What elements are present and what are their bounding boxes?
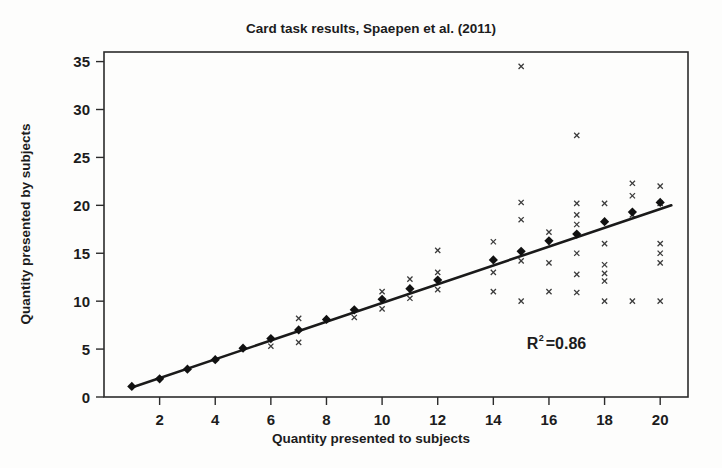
x-marker	[491, 289, 496, 294]
x-marker	[519, 64, 524, 69]
x-tick-label: 10	[374, 411, 391, 428]
x-marker	[658, 184, 663, 189]
individual-response-markers	[268, 64, 663, 349]
x-marker	[379, 306, 384, 311]
x-marker	[435, 287, 440, 292]
x-marker	[379, 289, 384, 294]
x-tick-label: 20	[652, 411, 669, 428]
x-tick-label: 6	[267, 411, 275, 428]
x-marker	[574, 272, 579, 277]
x-marker	[407, 296, 412, 301]
mean-diamond-marker	[544, 236, 553, 245]
y-axis-label: Quantity presented by subjects	[18, 123, 33, 324]
x-marker	[491, 239, 496, 244]
x-marker	[658, 299, 663, 304]
x-marker	[574, 290, 579, 295]
mean-diamond-marker	[155, 374, 164, 383]
y-axis-ticks: 05101520253035	[73, 53, 104, 405]
x-tick-label: 8	[322, 411, 330, 428]
y-tick-label: 35	[73, 53, 90, 70]
x-marker	[574, 133, 579, 138]
scatter-plot-canvas: Card task results, Spaepen et al. (2011)…	[0, 0, 722, 468]
x-axis-ticks: 2468101214161820	[155, 397, 668, 428]
x-tick-label: 12	[429, 411, 446, 428]
x-tick-label: 14	[485, 411, 502, 428]
r-squared-value: =0.86	[546, 335, 587, 352]
x-marker	[519, 200, 524, 205]
chart-title: Card task results, Spaepen et al. (2011)	[246, 21, 496, 36]
y-tick-label: 10	[73, 293, 90, 310]
x-marker	[658, 251, 663, 256]
x-marker	[268, 344, 273, 349]
x-marker	[491, 270, 496, 275]
x-marker	[546, 289, 551, 294]
x-marker	[630, 181, 635, 186]
x-marker	[546, 230, 551, 235]
x-tick-label: 16	[541, 411, 558, 428]
x-tick-label: 2	[155, 411, 163, 428]
x-marker	[519, 258, 524, 263]
x-marker	[658, 260, 663, 265]
x-marker	[630, 299, 635, 304]
x-marker	[602, 278, 607, 283]
x-marker	[546, 260, 551, 265]
y-tick-label: 5	[82, 341, 90, 358]
r-squared-annotation: R 2 =0.86	[527, 333, 587, 352]
x-marker	[574, 222, 579, 227]
mean-diamond-marker	[600, 217, 609, 226]
x-marker	[407, 277, 412, 282]
x-marker	[602, 299, 607, 304]
r-squared-superscript: 2	[539, 333, 544, 343]
x-marker	[574, 212, 579, 217]
mean-diamond-marker	[127, 382, 136, 391]
mean-diamond-marker	[628, 207, 637, 216]
y-tick-label: 15	[73, 245, 90, 262]
mean-diamond-marker	[656, 198, 665, 207]
x-marker	[658, 241, 663, 246]
x-marker	[602, 201, 607, 206]
x-marker	[602, 262, 607, 267]
mean-diamond-marker	[183, 365, 192, 374]
mean-diamond-marker	[211, 355, 220, 364]
x-marker	[296, 316, 301, 321]
x-marker	[574, 251, 579, 256]
chart-figure: Card task results, Spaepen et al. (2011)…	[0, 0, 722, 468]
x-marker	[602, 241, 607, 246]
r-squared-text: R	[527, 335, 539, 352]
x-marker	[519, 217, 524, 222]
x-axis-label: Quantity presented to subjects	[272, 431, 470, 446]
y-tick-label: 0	[82, 389, 90, 406]
x-marker	[602, 271, 607, 276]
x-marker	[352, 315, 357, 320]
y-tick-label: 20	[73, 197, 90, 214]
x-marker	[574, 201, 579, 206]
plot-frame	[104, 52, 688, 397]
y-tick-label: 30	[73, 101, 90, 118]
x-marker	[630, 193, 635, 198]
x-marker	[435, 248, 440, 253]
x-marker	[296, 340, 301, 345]
x-marker	[519, 299, 524, 304]
y-tick-label: 25	[73, 149, 90, 166]
x-tick-label: 4	[211, 411, 220, 428]
x-tick-label: 18	[596, 411, 613, 428]
x-marker	[435, 270, 440, 275]
